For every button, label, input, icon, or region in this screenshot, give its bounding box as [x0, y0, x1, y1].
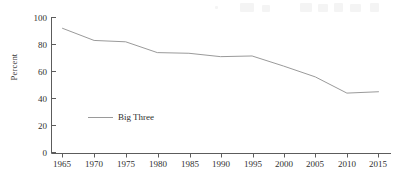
data-line-big-three	[63, 28, 379, 93]
y-tick-marks	[52, 18, 57, 153]
line-chart-figure: Percent 100 80 60 40 20 0 1965 1970 1975…	[0, 0, 398, 182]
x-tick-marks	[63, 154, 379, 158]
plot-area	[0, 0, 398, 182]
